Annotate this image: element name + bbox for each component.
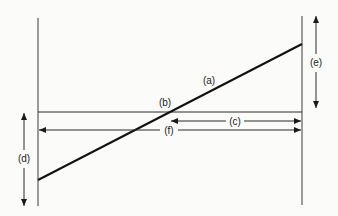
diagram-svg: (c) (f) (d) (e) (a) (b): [0, 0, 338, 216]
arrow-c: (c): [171, 116, 301, 127]
diagram-canvas: (c) (f) (d) (e) (a) (b): [0, 0, 338, 216]
arrow-d: (d): [18, 113, 30, 206]
label-f: (f): [164, 125, 173, 136]
arrow-f: (f): [39, 125, 301, 136]
label-c: (c): [229, 116, 241, 127]
arrow-e: (e): [310, 16, 322, 108]
label-a: (a): [203, 75, 215, 86]
label-b: (b): [159, 97, 171, 108]
label-d: (d): [18, 153, 30, 164]
label-e: (e): [310, 57, 322, 68]
